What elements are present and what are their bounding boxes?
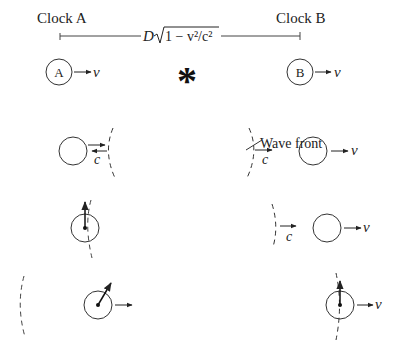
wave-front-arc	[20, 276, 25, 337]
clock-a-label: Clock A	[37, 11, 87, 26]
wave-front-arc	[272, 204, 276, 247]
diagram-canvas: D 1 − v²/c² A v * B v c c	[0, 0, 398, 357]
velocity-label: v	[93, 64, 100, 80]
light-speed-label: c	[94, 152, 101, 167]
clock-a-letter: A	[54, 65, 64, 80]
velocity-label: v	[351, 142, 358, 158]
velocity-label: v	[363, 219, 370, 235]
row-clock-a-starts: c v	[71, 200, 370, 258]
light-speed-label: c	[286, 229, 293, 244]
wave-front-arc	[108, 128, 115, 178]
distance-D: D	[142, 28, 154, 44]
wave-front-arc	[88, 200, 92, 258]
velocity-label: v	[375, 296, 382, 312]
row-wave-reaches-b: v	[20, 273, 382, 340]
distance-radicand: 1 − v²/c²	[165, 29, 212, 44]
velocity-label: v	[334, 64, 341, 80]
flash-asterisk-icon: *	[177, 58, 197, 103]
distance-bar: D 1 − v²/c²	[60, 27, 300, 44]
clock-b-label: Clock B	[276, 11, 326, 26]
relativity-simultaneity-diagram: Clock A Clock B Wave front D 1 − v²/c² A…	[0, 0, 398, 357]
wave-front-arc	[246, 128, 254, 180]
clock-b-letter: B	[296, 65, 305, 80]
row-initial: A v * B v	[46, 58, 341, 103]
clock-hand	[98, 283, 111, 305]
wave-front-label: Wave front	[260, 137, 322, 151]
light-speed-label: c	[262, 152, 269, 167]
